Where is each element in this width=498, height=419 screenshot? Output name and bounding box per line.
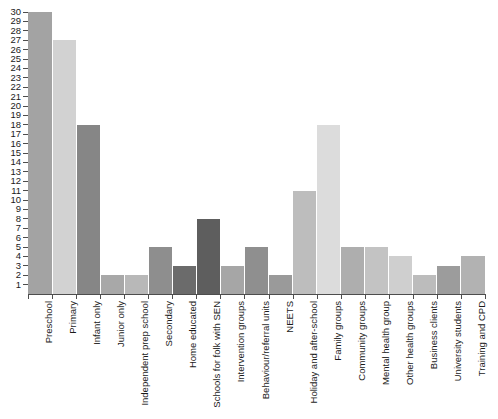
x-tick-mark [52,294,53,299]
y-tick-label: 5 [16,241,21,252]
bar [317,125,340,294]
x-axis-label: Infant only [92,301,102,345]
bar-series [28,12,485,294]
y-tick-label: 8 [16,213,21,224]
bar [173,266,196,294]
y-tick-label: 17 [10,128,21,139]
y-tick-label: 26 [10,44,21,55]
x-axis-label: Family groups [333,301,343,361]
y-tick-label: 23 [10,72,21,83]
x-axis-label: Schools for folk with SEN [212,301,222,408]
x-tick-mark [244,294,245,299]
x-axis-label: Independent prep school [140,301,150,406]
x-tick-mark [293,294,294,299]
y-tick-label: 4 [16,250,21,261]
y-tick-label: 9 [16,203,21,214]
x-tick-mark [485,294,486,299]
x-axis-label: Secondary [164,301,174,346]
x-tick-mark [437,294,438,299]
x-tick-mark [196,294,197,299]
y-tick-label: 2 [16,269,21,280]
bar [197,219,220,294]
y-tick-label: 28 [10,25,21,36]
x-axis-label: Primary [68,301,78,334]
y-tick-label: 22 [10,81,21,92]
y-tick-label: 1 [16,279,21,290]
x-tick-mark [220,294,221,299]
x-tick-mark [341,294,342,299]
y-tick-label: 25 [10,53,21,64]
x-axis-label: Home educated [188,301,198,368]
x-tick-mark [76,294,77,299]
bar [341,247,364,294]
x-axis-label: Community groups [357,301,367,381]
y-tick-label: 6 [16,232,21,243]
y-tick-label: 13 [10,166,21,177]
x-axis-label: Business clients [429,301,439,369]
y-tick-label: 11 [11,185,21,196]
bar-chart: 1234567891011121314151617181920212223242… [0,0,498,419]
x-axis-label: NEETS [285,301,295,333]
y-tick-label: 7 [16,222,21,233]
x-axis-label: Junior only [116,301,126,347]
bar [461,256,484,294]
x-tick-mark [148,294,149,299]
x-tick-mark [28,294,29,299]
bar [245,247,268,294]
x-axis-label: Behaviour/referral units [261,301,271,399]
bar [149,247,172,294]
x-tick-mark [413,294,414,299]
y-tick-label: 19 [10,109,21,120]
y-tick-label: 15 [10,147,21,158]
bar [293,191,316,294]
y-tick-label: 18 [10,119,21,130]
x-axis-labels: PreschoolPrimaryInfant onlyJunior onlyIn… [28,301,485,417]
x-axis-label: Training and CPD [477,301,487,376]
y-tick-label: 16 [10,138,21,149]
bar [365,247,388,294]
x-tick-mark [389,294,390,299]
y-tick-label: 20 [10,100,21,111]
bar [269,275,292,294]
y-tick-label: 30 [10,6,21,17]
x-tick-mark [100,294,101,299]
x-tick-mark [172,294,173,299]
y-tick-label: 27 [10,34,21,45]
y-tick-label: 29 [10,15,21,26]
x-tick-mark [461,294,462,299]
x-tick-mark [269,294,270,299]
y-tick-label: 12 [10,175,21,186]
x-axis-line [28,294,485,295]
bar [101,275,124,294]
bar [77,125,100,294]
x-tick-mark [317,294,318,299]
bar [389,256,412,294]
bar [413,275,436,294]
x-axis-label: Preschool [44,301,54,343]
x-tick-mark [124,294,125,299]
bar [221,266,244,294]
x-axis-label: Holiday and after-school [309,301,319,403]
x-tick-mark [365,294,366,299]
y-tick-label: 10 [10,194,21,205]
x-axis-label: University students [453,301,463,381]
y-tick-label: 24 [10,62,21,73]
y-tick-label: 14 [10,156,21,167]
bar [28,12,51,294]
x-axis-label: Mental health group [381,301,391,385]
y-tick-label: 21 [10,91,21,102]
bar [125,275,148,294]
x-axis-label: Intervention groups [236,301,246,382]
bar [53,40,76,294]
y-tick-label: 3 [16,260,21,271]
x-axis-label: Other health groups [405,301,415,385]
bar [437,266,460,294]
